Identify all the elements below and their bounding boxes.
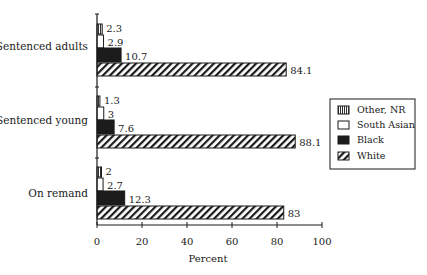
bar-white [97,63,286,76]
bar-black [97,191,125,205]
bar-chart: 2.32.910.784.11.337.688.122.712.383 Sent… [0,0,427,275]
value-label: 7.6 [118,123,134,134]
value-label: 2.9 [108,37,124,48]
legend-item-white: White [338,150,386,161]
value-label: 1.3 [104,95,120,106]
bar-black [97,48,121,62]
legend: Other, NR South Asian Black White [330,99,415,169]
bar-south-asian [97,35,104,48]
x-tick-label: 40 [181,236,194,247]
value-label: 2 [106,166,112,177]
x-tick-label: 80 [271,236,284,247]
bar-other-nr [97,24,102,34]
x-tick-label: 60 [226,236,239,247]
value-label: 10.7 [125,51,147,62]
legend-label: White [357,150,386,161]
bar-white [97,135,295,148]
bar-black [97,120,114,134]
category-label: Sentenced young [0,114,88,126]
value-label: 12.3 [129,194,151,205]
category-label: On remand [28,187,88,199]
value-label: 88.1 [299,137,321,148]
category-labels-layer: Sentenced adultsSentenced youngOn remand [0,40,88,199]
value-labels-layer: 2.32.910.784.11.337.688.122.712.383 [104,23,322,219]
value-label: 2.3 [106,23,122,34]
value-label: 83 [288,208,301,219]
legend-label: Other, NR [357,104,406,115]
legend-swatch-vertical-stripes-icon [338,106,349,114]
x-tick-label: 0 [94,236,100,247]
bar-south-asian [97,178,103,191]
legend-item-other-nr: Other, NR [338,104,406,115]
bar-other-nr [97,167,102,177]
legend-swatch-diagonal-hatch-icon [338,152,349,160]
bar-white [97,206,284,219]
legend-swatch-black-icon [338,136,349,144]
x-axis-ticks: 020406080100 [94,222,332,247]
x-axis-title: Percent [189,253,228,264]
value-label: 84.1 [290,65,312,76]
legend-item-black: Black [338,134,384,145]
x-tick-label: 100 [312,236,331,247]
legend-swatch-white-icon [338,121,349,129]
value-label: 2.7 [107,180,123,191]
legend-label: Black [357,134,384,145]
category-label: Sentenced adults [0,40,88,52]
bar-south-asian [97,107,104,120]
value-label: 3 [108,109,114,120]
x-tick-label: 20 [136,236,149,247]
legend-label: South Asian [357,119,415,130]
